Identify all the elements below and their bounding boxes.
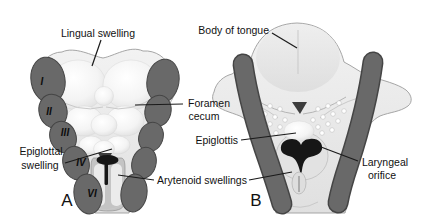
- epiglottis-shape: [284, 121, 314, 141]
- label-epiglottal-swelling-line1: Epiglottal: [19, 145, 62, 157]
- tongue-development-figure: I II III IV VI A: [0, 0, 421, 220]
- arch-numeral-2: II: [46, 106, 52, 117]
- label-foramen-cecum-line1: Foramen: [188, 97, 230, 109]
- label-laryngeal-orifice-line2: orifice: [368, 169, 396, 181]
- panel-b-letter: B: [250, 191, 261, 210]
- arch-numeral-6: VI: [87, 188, 97, 199]
- label-foramen-cecum-line2: cecum: [189, 110, 220, 122]
- label-lingual-swelling: Lingual swelling: [61, 27, 135, 39]
- label-epiglottis: Epiglottis: [195, 134, 238, 146]
- panel-a: I II III IV VI A: [27, 49, 182, 216]
- panel-a-letter: A: [61, 191, 73, 210]
- label-arytenoid-swellings: Arytenoid swellings: [157, 174, 247, 186]
- arch-numeral-3: III: [61, 127, 70, 138]
- tuberculum-impar: [95, 87, 114, 106]
- label-epiglottal-swelling-line2: swelling: [21, 159, 59, 171]
- arch-numeral-1: I: [41, 76, 44, 87]
- figure-canvas: I II III IV VI A: [0, 0, 421, 220]
- label-laryngeal-orifice-line1: Laryngeal: [362, 156, 408, 168]
- label-body-of-tongue: Body of tongue: [198, 24, 269, 36]
